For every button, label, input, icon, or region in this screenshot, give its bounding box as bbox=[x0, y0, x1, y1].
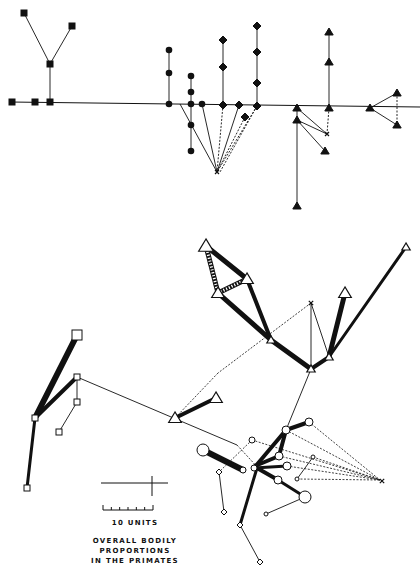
square-node-icon bbox=[47, 61, 54, 68]
thick-segment-line bbox=[271, 340, 311, 369]
circle-node-icon bbox=[311, 455, 315, 459]
connector-line bbox=[219, 472, 224, 512]
diamond-node-icon bbox=[235, 101, 243, 109]
scale-bar bbox=[101, 476, 168, 510]
triangle-node-icon bbox=[393, 121, 401, 128]
circle-node-icon bbox=[166, 47, 173, 54]
connector-line bbox=[297, 108, 327, 134]
diamond-node-icon bbox=[253, 48, 261, 56]
square-node-icon bbox=[72, 330, 82, 340]
scale-units-label: 10 UNITS bbox=[80, 518, 190, 528]
diamond-node-icon bbox=[219, 63, 227, 71]
diamond-node-icon bbox=[241, 113, 249, 121]
triangle-node-icon bbox=[199, 239, 214, 251]
connector-line bbox=[297, 457, 313, 479]
bottom-proportion-diagram bbox=[24, 239, 410, 565]
thick-segment-line bbox=[240, 468, 257, 525]
circle-node-icon bbox=[264, 512, 268, 516]
circle-node-icon bbox=[188, 122, 195, 129]
circle-node-icon bbox=[166, 101, 173, 108]
connector-line bbox=[311, 303, 329, 357]
triangle-node-icon bbox=[325, 104, 333, 111]
square-node-icon bbox=[32, 415, 38, 421]
connector-line bbox=[180, 104, 217, 172]
connector-line bbox=[59, 402, 77, 432]
circle-node-icon bbox=[283, 462, 291, 470]
connector-line bbox=[217, 105, 239, 172]
dashed-connector-line bbox=[175, 373, 218, 418]
title-line-2: PROPORTIONS bbox=[80, 546, 190, 556]
diamond-node-icon bbox=[253, 79, 261, 87]
square-node-icon bbox=[24, 485, 30, 491]
connector-line bbox=[24, 13, 50, 64]
baseline-line bbox=[10, 102, 420, 107]
figure-title: OVERALL BODILY PROPORTIONS IN THE PRIMAT… bbox=[80, 536, 190, 566]
circle-node-icon bbox=[166, 70, 173, 77]
dashed-connector-line bbox=[220, 106, 257, 172]
circle-node-icon bbox=[249, 437, 255, 443]
triangle-node-icon bbox=[366, 104, 374, 111]
connector-line bbox=[50, 26, 72, 64]
triangle-node-icon bbox=[325, 28, 333, 35]
dashed-connector-line bbox=[313, 457, 380, 480]
circle-node-icon bbox=[188, 101, 195, 108]
circle-node-icon bbox=[240, 467, 246, 473]
dashed-connector-line bbox=[279, 456, 380, 480]
thick-segment-line bbox=[35, 335, 77, 418]
diamond-node-icon bbox=[257, 559, 263, 565]
connector-line bbox=[77, 377, 237, 445]
triangle-node-icon bbox=[402, 243, 410, 250]
cross-marker-icon bbox=[380, 479, 384, 483]
connector-line bbox=[240, 525, 260, 562]
dashed-connector-line bbox=[218, 303, 311, 373]
thick-segment-line bbox=[203, 450, 243, 470]
circle-node-icon bbox=[199, 101, 206, 108]
connector-line bbox=[297, 120, 327, 134]
primate-proportions-diagram bbox=[0, 0, 420, 573]
circle-node-icon bbox=[295, 477, 299, 481]
circle-node-icon bbox=[282, 426, 290, 434]
triangle-node-icon bbox=[325, 58, 333, 65]
circle-node-icon bbox=[197, 444, 209, 456]
title-line-1: OVERALL BODILY bbox=[80, 536, 190, 546]
square-node-icon bbox=[21, 10, 28, 17]
square-node-icon bbox=[9, 99, 16, 106]
top-skeletal-diagram bbox=[9, 10, 420, 210]
square-node-icon bbox=[74, 399, 80, 405]
circle-node-icon bbox=[305, 418, 313, 426]
circle-node-icon bbox=[188, 73, 195, 80]
circle-node-icon bbox=[188, 89, 195, 96]
circle-node-icon bbox=[274, 476, 282, 484]
circle-node-icon bbox=[275, 452, 283, 460]
diamond-node-icon bbox=[221, 509, 227, 515]
circle-node-icon bbox=[188, 148, 195, 155]
diamond-node-icon bbox=[253, 102, 261, 110]
connector-line bbox=[297, 120, 325, 151]
diamond-node-icon bbox=[219, 101, 227, 109]
dashed-connector-line bbox=[217, 117, 245, 172]
square-node-icon bbox=[56, 429, 62, 435]
title-line-3: IN THE PRIMATES bbox=[80, 556, 190, 566]
diamond-node-icon bbox=[253, 22, 261, 30]
triangle-node-icon bbox=[293, 202, 301, 209]
square-node-icon bbox=[47, 99, 54, 106]
square-node-icon bbox=[32, 99, 39, 106]
thick-segment-line bbox=[175, 398, 216, 418]
square-node-icon bbox=[69, 23, 76, 30]
circle-node-icon bbox=[299, 491, 311, 503]
diamond-node-icon bbox=[219, 36, 227, 44]
circle-node-icon bbox=[251, 465, 257, 471]
triangle-node-icon bbox=[210, 392, 223, 403]
square-node-icon bbox=[74, 374, 80, 380]
connector-line bbox=[202, 104, 217, 172]
triangle-node-icon bbox=[393, 89, 401, 96]
triangle-node-icon bbox=[293, 116, 301, 123]
triangle-node-icon bbox=[339, 287, 352, 298]
dashed-connector-line bbox=[327, 108, 329, 134]
dashed-connector-line bbox=[297, 479, 380, 480]
scale-ruler bbox=[103, 505, 153, 510]
thick-segment-line bbox=[27, 418, 35, 488]
